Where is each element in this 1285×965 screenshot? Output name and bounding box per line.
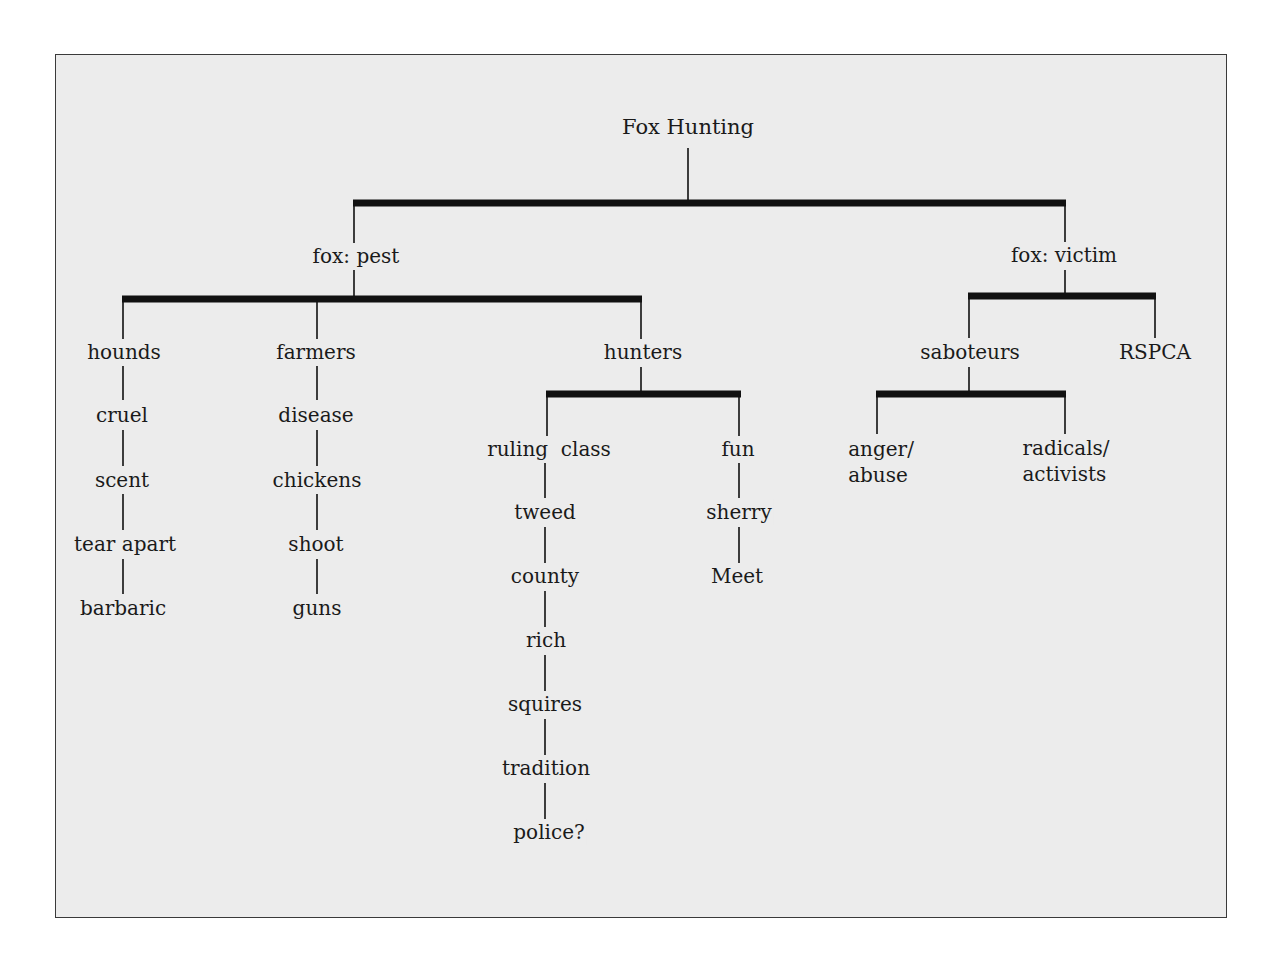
node-disease: disease (276, 402, 355, 428)
node-squires: squires (506, 691, 584, 717)
node-farmers: farmers (274, 339, 358, 365)
node-radicals-line2: activists (1022, 461, 1109, 487)
node-police: police? (511, 819, 586, 845)
node-saboteurs: saboteurs (918, 339, 1022, 365)
node-cruel: cruel (94, 402, 150, 428)
node-hunters: hunters (602, 339, 684, 365)
node-radicals-activists: radicals/ activists (1020, 435, 1111, 487)
node-barbaric: barbaric (78, 595, 168, 621)
node-tear-apart: tear apart (72, 531, 178, 557)
node-county: county (509, 563, 581, 589)
node-fox-victim: fox: victim (1009, 242, 1119, 268)
node-ruling-class: ruling class (485, 436, 613, 462)
node-root: Fox Hunting (620, 114, 756, 140)
node-guns: guns (291, 595, 344, 621)
node-hounds: hounds (85, 339, 163, 365)
node-meet: Meet (709, 563, 765, 589)
node-tradition: tradition (500, 755, 592, 781)
node-rich: rich (524, 627, 568, 653)
node-sherry: sherry (704, 499, 773, 525)
node-scent: scent (93, 467, 151, 493)
node-chickens: chickens (271, 467, 364, 493)
node-tweed: tweed (512, 499, 578, 525)
node-shoot: shoot (286, 531, 345, 557)
node-anger-abuse: anger/ abuse (846, 436, 916, 488)
node-fox-pest: fox: pest (311, 243, 402, 269)
node-radicals-line1: radicals/ (1022, 435, 1109, 461)
node-anger-line2: abuse (848, 462, 914, 488)
node-anger-line1: anger/ (848, 436, 914, 462)
node-fun: fun (719, 436, 756, 462)
node-rspca: RSPCA (1117, 339, 1193, 365)
